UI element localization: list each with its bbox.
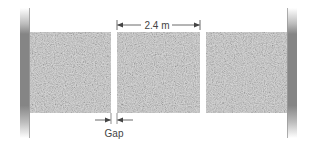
gap-label: Gap [105,128,124,139]
concrete-slab-middle [117,32,200,113]
gap-indicator: Gap [95,113,133,139]
dimension-label: 2.4 m [144,20,169,31]
concrete-slab-left [30,32,111,113]
length-dimension: 2.4 m [117,20,200,31]
right-wall [287,8,297,138]
concrete-slab-right [206,32,287,113]
left-wall [20,8,30,138]
slab-gap-diagram: 2.4 m Gap [0,0,314,153]
